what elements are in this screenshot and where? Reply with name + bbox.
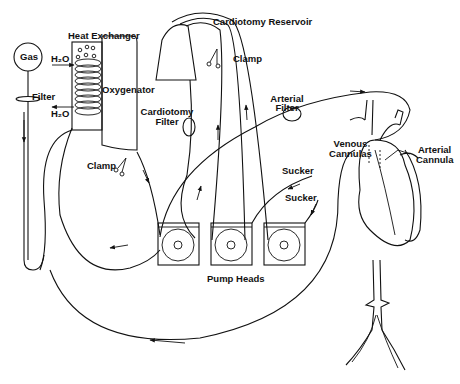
heat-exchanger-label: Heat Exchanger: [68, 31, 140, 41]
vessels-icon: [346, 260, 405, 370]
arterial-filter-label-2: Filter: [262, 103, 312, 113]
bypass-circuit-diagram: Gas Filter Heat Exchanger H₂O H₂O Oxygen…: [0, 0, 460, 384]
gas-filter-icon: [16, 97, 44, 271]
h2o-in-label: H₂O: [51, 54, 69, 64]
pump-head-3-icon: [264, 223, 305, 265]
pump-head-2-icon: [211, 223, 252, 265]
arterial-cannula-label-2: Cannula: [416, 155, 453, 165]
venous-cannulas-label-2: Cannulas: [323, 149, 378, 159]
pump-head-1-icon: [158, 223, 199, 265]
venous-return-line: [50, 150, 355, 340]
sucker-2-label: Sucker: [285, 193, 317, 203]
clamp-left-label: Clamp: [87, 161, 116, 171]
sucker-1-label: Sucker: [282, 166, 314, 176]
oxygenator-label: Oxygenator: [102, 85, 155, 95]
filter-label: Filter: [32, 92, 55, 102]
cardiotomy-filter-label-2: Filter: [137, 117, 197, 127]
clamp-top-label: Clamp: [233, 54, 262, 64]
heart-icon: [350, 100, 421, 246]
clamp-top-icon: [207, 49, 220, 68]
h2o-out-label: H₂O: [51, 109, 69, 119]
cardiotomy-filter-icon: [181, 80, 195, 238]
pump-heads-label: Pump Heads: [207, 274, 265, 284]
cardiotomy-reservoir-label: Cardiotomy Reservoir: [213, 17, 312, 27]
gas-label: Gas: [20, 52, 38, 62]
